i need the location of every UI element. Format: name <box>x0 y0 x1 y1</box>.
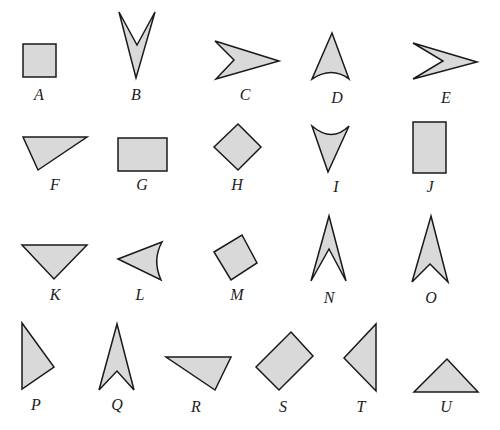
shape-r: R <box>166 357 231 415</box>
rectangle-rotated-shape <box>256 332 313 390</box>
shape-label: T <box>357 398 367 415</box>
shape-label: K <box>49 286 62 303</box>
shape-m: M <box>214 235 257 303</box>
shape-label: L <box>135 286 145 303</box>
concave-kite-shape <box>311 216 346 281</box>
triangle-shape <box>23 137 87 170</box>
shape-a: A <box>23 44 56 103</box>
curved-base-triangle-shape <box>312 33 349 79</box>
shape-b: B <box>119 12 155 103</box>
square-rotated-shape <box>214 235 257 280</box>
shape-label: M <box>229 286 245 303</box>
shape-n: N <box>311 216 346 306</box>
concave-kite-shape <box>413 43 477 79</box>
shape-label: S <box>279 398 287 415</box>
shape-label: U <box>440 398 453 415</box>
shape-k: K <box>22 245 87 303</box>
shape-g: G <box>118 138 167 193</box>
shape-i: I <box>312 126 349 195</box>
shape-t: T <box>344 324 376 415</box>
square-rotated-shape <box>214 124 261 170</box>
square-shape <box>23 44 56 77</box>
shape-label: B <box>131 86 141 103</box>
shape-label: D <box>330 89 343 106</box>
shape-s: S <box>256 332 313 415</box>
shape-f: F <box>23 137 87 193</box>
curved-top-triangle-shape <box>312 126 349 172</box>
shape-label: I <box>332 178 339 195</box>
concave-kite-shape <box>119 12 155 78</box>
curved-triangle-shape <box>118 242 162 280</box>
shape-label: A <box>33 86 44 103</box>
shape-label: R <box>190 398 201 415</box>
shape-label: Q <box>111 396 123 413</box>
concave-kite-shape <box>99 324 134 390</box>
shape-label: G <box>136 176 148 193</box>
shape-label: H <box>230 176 244 193</box>
triangle-shape <box>22 323 54 389</box>
shape-o: O <box>412 216 448 306</box>
concave-kite-shape <box>215 41 279 79</box>
shape-h: H <box>214 124 261 193</box>
triangle-shape <box>166 357 231 390</box>
shape-label: N <box>323 289 336 306</box>
shape-p: P <box>22 323 54 413</box>
shape-e: E <box>413 43 477 106</box>
concave-kite-shape <box>412 216 448 282</box>
shape-l: L <box>118 242 162 303</box>
triangle-shape <box>414 359 478 392</box>
shape-c: C <box>215 41 279 103</box>
rectangle-shape <box>413 122 446 173</box>
shape-d: D <box>312 33 349 106</box>
shape-u: U <box>414 359 478 415</box>
shape-q: Q <box>99 324 134 413</box>
shapes-figure: ABCDEFGHIJKLMNOPQRSTU <box>0 0 500 430</box>
triangle-shape <box>344 324 376 391</box>
shape-label: E <box>440 89 451 106</box>
triangle-shape <box>22 245 87 279</box>
shape-label: O <box>425 289 437 306</box>
shape-j: J <box>413 122 446 195</box>
shape-label: P <box>30 396 41 413</box>
shape-label: F <box>49 176 60 193</box>
rectangle-shape <box>118 138 167 171</box>
shape-label: J <box>426 178 434 195</box>
shape-label: C <box>240 86 251 103</box>
